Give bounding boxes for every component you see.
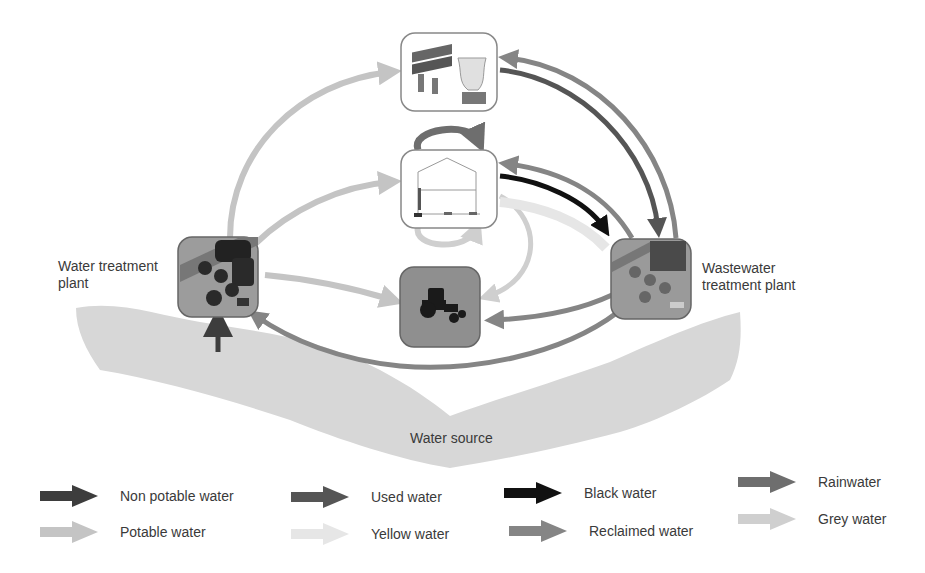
legend-label: Yellow water [371,526,449,542]
legend-item-potable: Potable water [40,521,206,543]
legend-item-rainwater: Rainwater [738,471,881,493]
household-node[interactable] [401,150,497,228]
label-line: treatment plant [702,277,795,294]
arrow-icon [738,471,796,493]
legend-item-reclaimed: Reclaimed water [509,520,693,542]
legend-item-grey: Grey water [738,508,886,530]
label-line: plant [58,275,158,292]
arrow-icon [291,523,349,545]
water-cycle-diagram: Water treatment plant Wastewater treatme… [0,0,925,573]
arrow-icon [291,486,349,508]
legend-label: Potable water [120,524,206,540]
arrow-icon [509,520,567,542]
wastewater-treatment-plant-label: Wastewater treatment plant [702,260,795,294]
legend-label: Rainwater [818,474,881,490]
legend-item-non-potable: Non potable water [40,485,234,507]
legend-item-black: Black water [504,482,656,504]
legend-item-used: Used water [291,486,442,508]
water-treatment-plant-node[interactable] [178,237,258,317]
legend-label: Non potable water [120,488,234,504]
arrow-potable-to-industry [230,72,390,238]
arrow-greywater-loop [418,226,476,245]
arrow-rainwater-loop [417,129,478,150]
legend-label: Used water [371,489,442,505]
wastewater-treatment-plant-node[interactable] [611,239,691,319]
arrow-reclaimed-to-agriculture [494,295,612,320]
water-source-label: Water source [410,430,493,447]
legend-item-yellow: Yellow water [291,523,449,545]
water-treatment-plant-label: Water treatment plant [58,258,158,292]
label-line: Water treatment [58,258,158,275]
industry-node[interactable] [401,33,497,111]
arrow-potable-to-agriculture [265,275,392,300]
arrow-potable-to-household [255,182,390,244]
legend-label: Grey water [818,511,886,527]
agriculture-node[interactable] [400,267,480,347]
label-line: Wastewater [702,260,795,277]
legend-label: Black water [584,485,656,501]
arrow-icon [40,521,98,543]
arrow-icon [504,482,562,504]
arrow-icon [40,485,98,507]
legend-label: Reclaimed water [589,523,693,539]
arrow-icon [738,508,796,530]
